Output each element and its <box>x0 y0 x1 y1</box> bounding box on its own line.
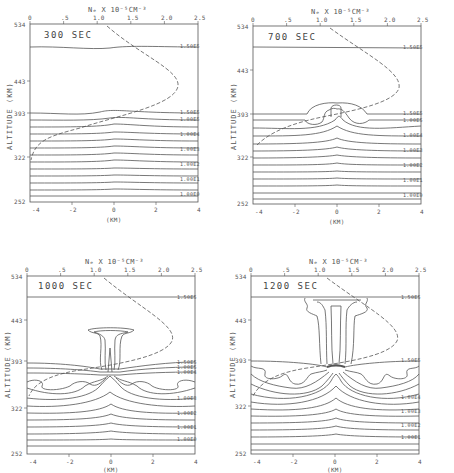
contour-label: 1.00E3 <box>401 408 421 414</box>
time-label: 1200 SEC <box>263 281 318 291</box>
contour-label: 1.50E5 <box>403 110 423 116</box>
x-axis-label: (KM) <box>103 466 119 473</box>
top-tick: 2.5 <box>191 266 203 273</box>
time-label: 700 SEC <box>268 32 316 42</box>
contour-label: 1.00E0 <box>403 192 423 198</box>
top-tick: 0 <box>28 14 32 21</box>
contour-label: 1.00E0 <box>180 191 200 197</box>
y-tick: 393 <box>14 110 26 117</box>
panel-700-sec: Nₑ X 10⁻⁵CM⁻³ 0 .5 1.0 1.5 2.0 2.5 534 4… <box>227 0 454 235</box>
top-tick: 1.5 <box>350 16 362 23</box>
contour-label: 1.00E2 <box>180 161 200 167</box>
contour-label: 1.50E5 <box>401 294 421 300</box>
top-tick: 0 <box>251 16 255 23</box>
top-tick: 2.5 <box>417 16 429 23</box>
x-tick: 0 <box>109 458 113 465</box>
top-tick: 2.5 <box>194 14 206 21</box>
contour-label: 1.00E2 <box>403 162 423 168</box>
top-tick: 2.0 <box>158 266 170 273</box>
y-tick: 534 <box>11 273 23 280</box>
x-tick: -4 <box>29 458 37 465</box>
x-tick: 2 <box>375 458 379 465</box>
contour-label: 1.00E2 <box>401 422 421 428</box>
x-tick: -4 <box>255 208 263 215</box>
y-tick: 393 <box>237 111 249 118</box>
top-tick: 1.5 <box>348 266 360 273</box>
top-tick: 1.5 <box>124 266 136 273</box>
x-tick: 4 <box>194 458 198 465</box>
contour-label: 1.00E4 <box>403 132 423 138</box>
top-tick: 2.5 <box>415 266 427 273</box>
contour-label: 1.00E5 <box>180 116 200 122</box>
contour-label: 1.00E0 <box>177 436 197 442</box>
x-tick: 4 <box>420 208 424 215</box>
x-axis-label: (KM) <box>327 466 343 473</box>
y-tick: 322 <box>235 403 247 410</box>
x-tick: -2 <box>66 458 74 465</box>
x-tick: -2 <box>290 458 298 465</box>
x-tick: 0 <box>333 458 337 465</box>
top-tick: .5 <box>284 16 292 23</box>
time-label: 300 SEC <box>44 30 92 40</box>
y-tick: 252 <box>235 450 247 457</box>
panel-300-sec: Nₑ X 10⁻⁵CM⁻³ 0 .5 1.0 1.5 2.0 2.5 534 4… <box>0 0 227 235</box>
x-tick: 0 <box>112 206 116 213</box>
x-tick: 0 <box>335 208 339 215</box>
y-tick: 393 <box>11 358 23 365</box>
top-tick: 2.0 <box>384 16 396 23</box>
contour-label: 1.00E5 <box>403 117 423 123</box>
y-tick: 443 <box>14 78 26 85</box>
top-tick: 1.0 <box>93 14 105 21</box>
top-axis-title: Nₑ X 10⁻⁵CM⁻³ <box>309 258 368 266</box>
contour-label: 1.00E3 <box>180 146 200 152</box>
x-axis-label: (KM) <box>329 218 345 225</box>
top-axis-title: Nₑ X 10⁻⁵CM⁻³ <box>88 6 147 14</box>
top-tick: .5 <box>282 266 290 273</box>
top-tick: .5 <box>61 14 69 21</box>
contour-label: 1.00E1 <box>403 177 423 183</box>
time-label: 1000 SEC <box>38 281 93 291</box>
contour-label: 1.00E4 <box>177 369 197 375</box>
top-axis-title: Nₑ X 10⁻⁵CM⁻³ <box>311 8 370 16</box>
top-tick: 1.0 <box>316 16 328 23</box>
x-tick: -2 <box>69 206 77 213</box>
x-tick: 2 <box>151 458 155 465</box>
y-tick: 443 <box>11 317 23 324</box>
y-tick: 443 <box>237 67 249 74</box>
top-tick: 2.0 <box>382 266 394 273</box>
x-tick: -4 <box>32 206 40 213</box>
y-axis-label: ALTITUDE (KM) <box>229 330 237 398</box>
contour-label: 1.00E1 <box>177 424 197 430</box>
y-tick: 534 <box>14 21 26 28</box>
top-tick: 2.0 <box>161 14 173 21</box>
contour-label: 1.00E3 <box>403 147 423 153</box>
contour-label: 1.00E4 <box>180 131 200 137</box>
x-tick: 4 <box>418 458 422 465</box>
x-tick: -4 <box>253 458 261 465</box>
y-tick: 322 <box>237 154 249 161</box>
contour-label: 1.00E2 <box>177 410 197 416</box>
x-tick: 2 <box>377 208 381 215</box>
top-tick: 1.0 <box>90 266 102 273</box>
contour-label: 1.50E5 <box>401 357 421 363</box>
top-tick: 1.5 <box>127 14 139 21</box>
y-tick: 252 <box>11 450 23 457</box>
y-tick: 252 <box>237 200 249 207</box>
contour-label: 1.00E3 <box>177 395 197 401</box>
y-tick: 252 <box>14 198 26 205</box>
y-axis-label: ALTITUDE (KM) <box>230 82 238 150</box>
top-tick: 0 <box>25 266 29 273</box>
contour-label: 1.00E1 <box>180 176 200 182</box>
contour-label: 1.00E4 <box>401 394 421 400</box>
contour-label: 1.00E1 <box>401 434 421 440</box>
y-tick: 322 <box>11 405 23 412</box>
y-tick: 534 <box>235 273 247 280</box>
x-tick: 4 <box>197 206 201 213</box>
x-axis-label: (KM) <box>106 216 122 223</box>
y-axis-label: ALTITUDE (KM) <box>6 82 14 150</box>
top-tick: 1.0 <box>314 266 326 273</box>
x-tick: 2 <box>154 206 158 213</box>
top-axis-title: Nₑ X 10⁻⁵CM⁻³ <box>85 258 144 266</box>
y-tick: 322 <box>14 154 26 161</box>
top-tick: .5 <box>58 266 66 273</box>
